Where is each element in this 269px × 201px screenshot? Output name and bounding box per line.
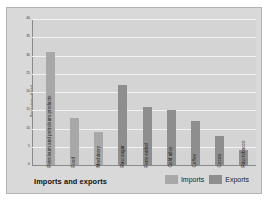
- legend-entry: Imports: [165, 175, 204, 184]
- y-axis-tick-label: 25: [26, 72, 30, 75]
- chart-title: Imports and exports: [34, 177, 107, 186]
- y-axis-tick-label: 0: [28, 163, 30, 166]
- legend-label: Exports: [225, 176, 249, 183]
- category-label: Gold alloy: [170, 147, 175, 168]
- y-axis-tick-label: 30: [26, 54, 30, 57]
- category-label: Raw tobacco: [242, 140, 247, 167]
- chart-figure: Percentage of total 0510152025303540 Pet…: [0, 0, 269, 201]
- category-label: Petroleum and petroleum products: [49, 96, 54, 168]
- category-label: Ferro-nickel: [145, 143, 150, 168]
- plot-area: 0510152025303540 Petroleum and petroleum…: [32, 19, 256, 166]
- chart-legend: ImportsExports: [165, 175, 249, 184]
- legend-entry: Exports: [209, 175, 249, 184]
- gridline: [32, 92, 256, 93]
- y-axis-tick-label: 40: [26, 17, 30, 20]
- y-axis-tick-label: 35: [26, 36, 30, 39]
- gridline: [32, 37, 256, 38]
- chart-panel: Percentage of total 0510152025303540 Pet…: [6, 7, 262, 194]
- y-axis-tick-label: 15: [26, 109, 30, 112]
- legend-swatch: [165, 175, 178, 184]
- y-axis-tick-label: 10: [26, 127, 30, 130]
- legend-swatch: [209, 175, 222, 184]
- gridline: [32, 19, 256, 20]
- y-axis-tick-label: 20: [26, 90, 30, 93]
- category-label: Machinery: [97, 146, 102, 168]
- category-label: Raw sugar: [121, 145, 126, 167]
- gridline: [32, 74, 256, 75]
- category-label: Food: [73, 157, 78, 168]
- category-label: Coffee: [194, 154, 199, 168]
- category-label: Cocoa: [218, 154, 223, 168]
- y-axis-tick-label: 5: [28, 145, 30, 148]
- legend-label: Imports: [181, 176, 204, 183]
- gridline: [32, 56, 256, 57]
